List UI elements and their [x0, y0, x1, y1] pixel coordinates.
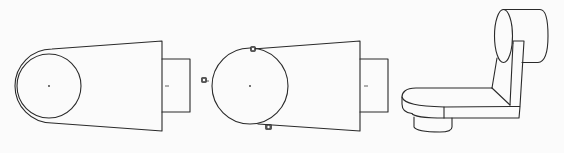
center-point [249, 85, 251, 87]
diagram-canvas [0, 0, 564, 153]
panel-solid-model [402, 10, 548, 133]
upright-plate-left-edge [492, 58, 497, 88]
upright-plate [513, 41, 524, 106]
tangent-constraint-icon[interactable] [202, 78, 210, 83]
boss-rectangle [162, 59, 190, 112]
tangent-constraint-icon[interactable] [266, 125, 272, 130]
panel-sketch-with-offset [15, 41, 190, 131]
base-plate-front [402, 97, 520, 118]
lower-boss [414, 117, 452, 132]
base-plate-corner-edge [492, 88, 510, 105]
center-point [48, 85, 50, 87]
base-plate-top [402, 88, 492, 114]
panel-sketch-with-constraints [202, 41, 389, 131]
tangent-constraint-icon[interactable] [251, 47, 256, 52]
tapered-body [253, 41, 360, 131]
cylinder-front-face [495, 10, 513, 63]
outer-profile [15, 41, 162, 131]
boss-rectangle [360, 59, 388, 112]
